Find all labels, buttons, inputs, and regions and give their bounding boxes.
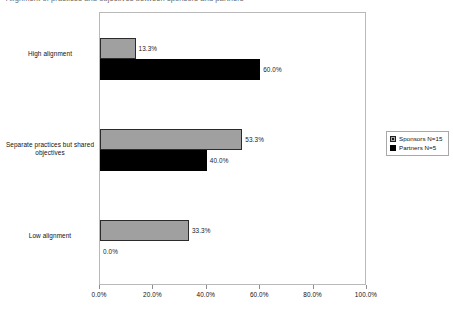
legend-swatch-partners-icon — [390, 145, 396, 151]
x-axis-tick-label: 60.0% — [250, 291, 269, 299]
bar-sponsors — [100, 38, 136, 59]
x-axis-tick — [366, 285, 367, 289]
x-axis-tick — [99, 285, 100, 289]
x-axis-tick-label: 80.0% — [303, 291, 322, 299]
x-axis-tick — [259, 285, 260, 289]
bar-sponsors — [100, 220, 189, 241]
bar-value-label: 13.3% — [139, 45, 158, 52]
x-axis-tick — [313, 285, 314, 289]
bar-sponsors — [100, 129, 242, 150]
legend-label-sponsors: Sponsors N=15 — [399, 135, 442, 143]
category-label: Low alignment — [4, 232, 96, 240]
plot-area: 13.3%60.0%53.3%40.0%33.3%0.0% — [99, 12, 366, 285]
category-label: Separate practices but shared objectives — [4, 141, 96, 157]
category-axis-labels: High alignmentSeparate practices but sha… — [0, 12, 96, 285]
legend-item-partners[interactable]: Partners N=5 — [390, 143, 445, 152]
legend-label-partners: Partners N=5 — [399, 144, 436, 152]
x-axis-tick-label: 0.0% — [92, 291, 107, 299]
category-label: High alignment — [4, 50, 96, 58]
chart-legend: Sponsors N=15 Partners N=5 — [386, 131, 449, 156]
bar-partners — [100, 59, 260, 80]
bar-value-label: 0.0% — [103, 248, 118, 255]
bar-value-label: 33.3% — [192, 227, 211, 234]
x-axis-tick-label: 20.0% — [143, 291, 162, 299]
x-axis-tick-label: 40.0% — [196, 291, 215, 299]
x-axis-tick — [152, 285, 153, 289]
bar-chart: 13.3%60.0%53.3%40.0%33.3%0.0% High align… — [0, 0, 453, 320]
bars-layer: 13.3%60.0%53.3%40.0%33.3%0.0% — [100, 13, 365, 284]
bar-value-label: 53.3% — [245, 136, 264, 143]
bar-value-label: 60.0% — [263, 66, 282, 73]
x-axis-tick-label: 100.0% — [355, 291, 377, 299]
x-axis-tick — [206, 285, 207, 289]
legend-swatch-sponsors-icon — [390, 136, 396, 142]
bar-partners — [100, 150, 207, 171]
x-axis: 0.0%20.0%40.0%60.0%80.0%100.0% — [99, 285, 366, 311]
bar-value-label: 40.0% — [210, 157, 229, 164]
legend-item-sponsors[interactable]: Sponsors N=15 — [390, 134, 445, 143]
